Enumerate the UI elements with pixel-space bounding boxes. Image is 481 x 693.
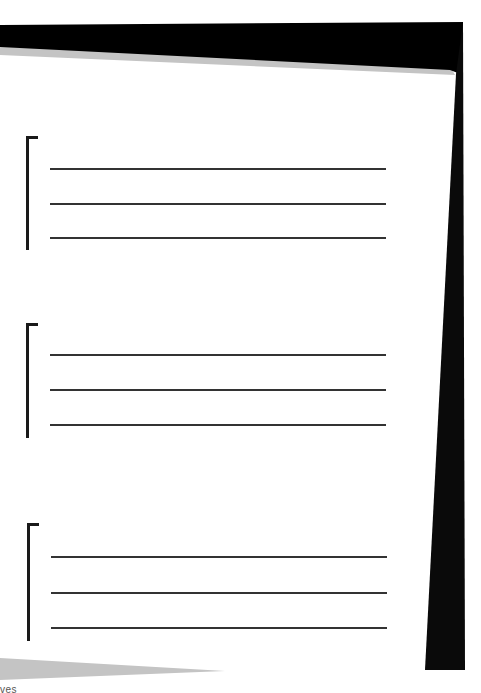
- top-black-band: [0, 22, 463, 75]
- writing-line: [51, 627, 387, 629]
- page-frame: [0, 0, 481, 693]
- bracket-top: [26, 323, 38, 326]
- bracket-top: [27, 523, 39, 526]
- writing-line: [50, 389, 386, 391]
- writing-line: [50, 237, 386, 239]
- writing-line: [51, 592, 387, 594]
- bracket-vertical: [27, 523, 30, 641]
- writing-line: [51, 556, 387, 558]
- bracket-top: [26, 136, 38, 139]
- writing-line: [50, 203, 386, 205]
- bracket-vertical: [26, 136, 29, 250]
- writing-line: [50, 424, 386, 426]
- right-black-wedge: [425, 22, 465, 670]
- bottom-shadow-wedge: [0, 658, 225, 680]
- writing-line: [50, 354, 386, 356]
- bracket-vertical: [26, 323, 29, 438]
- writing-line: [50, 168, 386, 170]
- cropped-footer-text: ves: [0, 684, 17, 693]
